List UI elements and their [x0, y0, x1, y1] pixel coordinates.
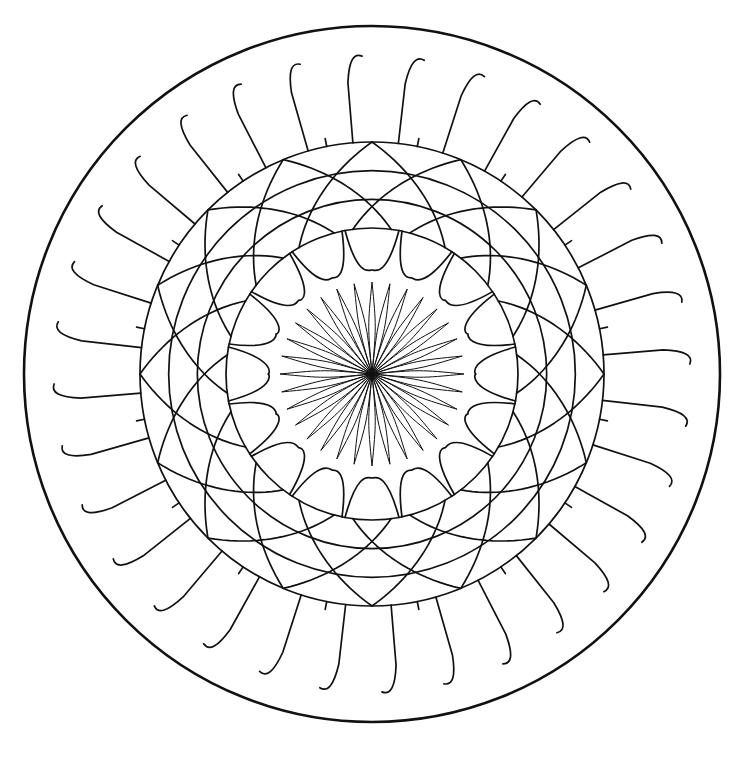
coloring-page: a faint partially cropped line of printe… — [0, 0, 745, 765]
mandala-artwork — [0, 0, 745, 765]
